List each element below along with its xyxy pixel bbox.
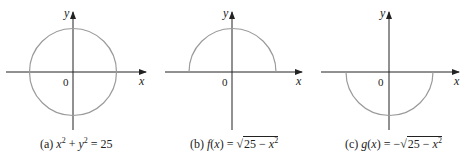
panel-a-graph: y x 0	[6, 6, 146, 130]
origin-label: 0	[222, 76, 228, 88]
x-axis-label: x	[138, 74, 145, 88]
caption-a: (a) x2 + y2 = 25	[40, 136, 113, 152]
y-axis-label: y	[63, 6, 70, 20]
y-axis-label: y	[222, 6, 229, 20]
caption-b: (b) f(x) = √25 − x2	[190, 136, 278, 152]
caption-a-prefix: (a)	[40, 137, 53, 151]
y-axis-label: y	[379, 6, 386, 20]
caption-c: (c) g(x) = −√25 − x2	[345, 136, 442, 152]
caption-b-prefix: (b)	[190, 137, 204, 151]
caption-a-equation: x2 + y2 = 25	[56, 137, 112, 151]
caption-c-equation: g(x) = −√25 − x2	[361, 136, 442, 151]
panel-c-graph: y x 0	[321, 6, 460, 130]
panel-b-graph: y x 0	[165, 6, 302, 130]
x-axis-label: x	[295, 74, 302, 88]
x-axis-label: x	[453, 74, 460, 88]
caption-b-equation: f(x) = √25 − x2	[207, 136, 278, 151]
origin-label: 0	[378, 76, 384, 88]
caption-c-prefix: (c)	[345, 137, 358, 151]
figure-canvas: y x 0 y x 0 y x 0	[0, 0, 467, 157]
origin-label: 0	[63, 76, 69, 88]
